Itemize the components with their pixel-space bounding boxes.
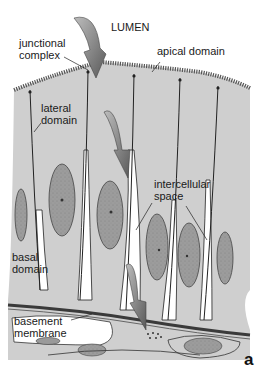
label-junctional-complex: junctional complex bbox=[19, 37, 65, 61]
connective-nucleus-3 bbox=[184, 338, 222, 354]
label-lumen: LUMEN bbox=[111, 21, 150, 33]
panel-letter: a bbox=[244, 350, 253, 370]
label-basement-membrane: basement membrane bbox=[14, 315, 67, 339]
label-basal-domain: basal domain bbox=[12, 251, 48, 275]
label-apical-domain: apical domain bbox=[157, 45, 225, 57]
label-lateral-domain: lateral domain bbox=[41, 102, 77, 126]
epithelium-diagram: LUMEN junctional complex apical domain l… bbox=[0, 0, 266, 373]
label-intercellular-space: intercellular space bbox=[154, 178, 210, 202]
